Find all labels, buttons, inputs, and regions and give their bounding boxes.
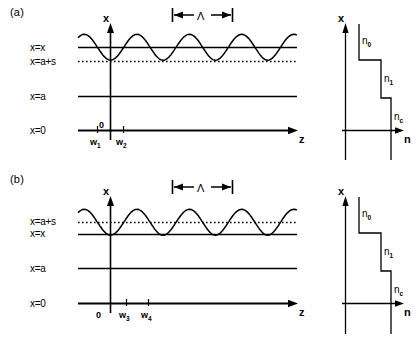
panel-b-label-x-equals-a: x=a — [30, 263, 46, 274]
panel-a-x-axis-label: x — [103, 12, 110, 24]
panel-a-label-x-equals-x: x=x — [30, 42, 45, 53]
panel-b-index-x-axis-label: x — [338, 185, 345, 197]
panel-b: (b) x=a+s x=x x=a x=0 z x 0 w3 w4 — [0, 168, 419, 336]
panel-a: (a) x=x x=a+s x=a x=0 z x 0 w1 w2 — [0, 0, 419, 168]
panel-b-index-label-n1: n1 — [384, 246, 394, 259]
panel-a-label-x-equals-a: x=a — [30, 91, 46, 102]
panel-a-index-label-n0: n0 — [362, 35, 372, 48]
panel-a-period-label: Λ — [197, 10, 205, 22]
panel-b-graphic: x=a+s x=x x=a x=0 z x 0 w3 w4 — [0, 168, 419, 337]
panel-b-origin-label: 0 — [96, 310, 101, 320]
panel-b-x-axis-label: x — [103, 185, 110, 197]
panel-b-index-label-nc: nc — [394, 284, 404, 297]
panel-a-z-axis-label: z — [299, 133, 305, 145]
panel-b-x-axis-arrowhead — [107, 196, 114, 206]
panel-a-label-x-equals-0: x=0 — [30, 125, 46, 136]
panel-b-index-n-axis-label: n — [404, 306, 411, 318]
panel-a-tick-label-w2: w2 — [115, 137, 127, 149]
panel-b-tick-label-w4: w4 — [140, 310, 152, 322]
panel-a-period-indicator: Λ — [173, 7, 233, 23]
panel-a-period-right-arrowhead — [222, 12, 231, 19]
panel-a-index-label-nc: nc — [394, 111, 404, 124]
panel-a-index-n-axis-label: n — [404, 133, 411, 145]
panel-a-index-profile: n x n0 n1 nc — [338, 12, 411, 160]
panel-b-z-axis-label: z — [299, 306, 305, 318]
panel-a-index-label-n1: n1 — [384, 73, 394, 86]
panel-b-label-x-equals-x: x=x — [30, 228, 45, 239]
panel-a-index-x-axis-label: x — [338, 12, 345, 24]
panel-b-index-profile: n x n0 n1 nc — [338, 185, 411, 334]
panel-b-label-x-equals-a-plus-s: x=a+s — [30, 216, 56, 227]
panel-a-label-x-equals-a-plus-s: x=a+s — [30, 56, 56, 67]
panel-a-graphic: x=x x=a+s x=a x=0 z x 0 w1 w2 — [0, 0, 419, 168]
panel-b-index-x-arrowhead — [342, 196, 348, 206]
panel-a-x-axis-arrowhead — [107, 23, 114, 33]
panel-a-period-left-arrowhead — [174, 12, 183, 19]
panel-a-tick-label-w1: w1 — [89, 137, 101, 149]
panel-b-period-right-arrowhead — [222, 184, 231, 191]
panel-b-period-left-arrowhead — [174, 184, 183, 191]
panel-a-index-x-arrowhead — [342, 23, 348, 33]
panel-b-z-axis-arrowhead — [288, 300, 298, 307]
panel-b-period-indicator: Λ — [173, 179, 233, 195]
panel-b-index-n-arrowhead — [395, 300, 404, 307]
panel-a-z-axis-arrowhead — [288, 127, 298, 134]
panel-b-index-label-n0: n0 — [362, 208, 372, 221]
panel-b-label-x-equals-0: x=0 — [30, 298, 46, 309]
panel-a-origin-label: 0 — [99, 120, 104, 130]
panel-b-tick-label-w3: w3 — [118, 310, 130, 322]
panel-b-period-label: Λ — [197, 182, 205, 194]
panel-a-index-n-arrowhead — [395, 127, 404, 134]
